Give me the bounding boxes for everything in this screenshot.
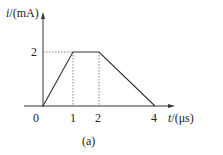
x-axis-label: t/(μs) (168, 112, 194, 124)
waveform-plot (0, 0, 223, 155)
origin-label: 0 (33, 112, 39, 124)
x-tick-2: 2 (95, 112, 101, 124)
y-tick-2: 2 (31, 46, 37, 58)
x-tick-1: 1 (70, 112, 76, 124)
x-tick-4: 4 (151, 112, 157, 124)
y-axis-arrow-icon (41, 12, 45, 19)
x-axis-arrow-icon (168, 104, 175, 108)
caption: (a) (82, 135, 95, 147)
y-axis-label: i/(mA) (6, 7, 39, 19)
